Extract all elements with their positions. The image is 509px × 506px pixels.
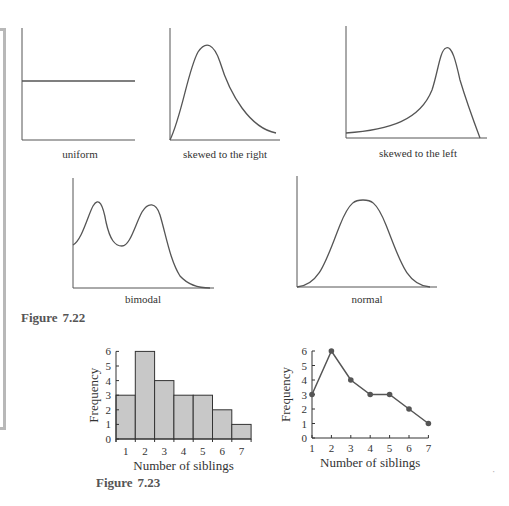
- x-tick-label: 6: [406, 442, 412, 454]
- data-point: [367, 392, 373, 398]
- y-axis-label: Frequency: [278, 367, 293, 422]
- data-point: [329, 348, 335, 354]
- x-tick-label: 7: [426, 442, 432, 454]
- shape-uniform: uniform: [22, 28, 135, 160]
- histogram-bar: [232, 424, 251, 439]
- y-tick-label: 5: [302, 360, 308, 372]
- scan-mark: ·: [492, 466, 495, 477]
- histogram-chart: 01234561234567Number of siblingsFrequenc…: [86, 345, 251, 473]
- shape-normal: normal: [297, 176, 437, 305]
- shape-skewed-left: skewed to the left: [346, 26, 487, 159]
- histogram-bar: [116, 395, 135, 439]
- shape-label: skewed to the right: [183, 148, 267, 160]
- data-point: [348, 377, 354, 383]
- x-tick-label: 5: [387, 442, 393, 454]
- frequency-polygon-chart: 01234561234567Number of siblingsFrequenc…: [278, 345, 432, 470]
- histogram-bar: [213, 410, 232, 439]
- x-tick-label: 1: [309, 442, 315, 454]
- shape-skewed-right: skewed to the right: [170, 28, 280, 160]
- figure-7-22-caption: Figure7.22: [21, 310, 85, 325]
- x-axis-label: Number of siblings: [133, 458, 233, 473]
- y-tick-label: 3: [302, 389, 308, 401]
- figure-7-23-caption: Figure7.23: [96, 475, 161, 490]
- y-tick-label: 0: [302, 432, 308, 444]
- x-tick-label: 3: [348, 442, 354, 454]
- y-axis-label: Frequency: [86, 367, 101, 422]
- y-tick-label: 6: [302, 345, 308, 357]
- y-tick-label: 4: [302, 374, 308, 386]
- x-tick-label: 2: [142, 445, 148, 457]
- y-tick-label: 3: [106, 389, 112, 401]
- x-tick-label: 7: [239, 445, 245, 457]
- histogram-bar: [135, 351, 154, 439]
- x-tick-label: 2: [329, 442, 335, 454]
- y-tick-label: 5: [106, 360, 112, 372]
- shape-label: bimodal: [125, 293, 161, 305]
- histogram-bar: [155, 381, 174, 439]
- y-tick-label: 4: [106, 375, 112, 387]
- data-point: [426, 421, 432, 427]
- y-tick-label: 1: [106, 418, 112, 430]
- y-tick-label: 2: [302, 403, 308, 415]
- x-tick-label: 6: [219, 445, 225, 457]
- y-tick-label: 1: [302, 418, 308, 430]
- shape-label: normal: [351, 293, 382, 305]
- figures-canvas: uniform skewed to the right skewed to th…: [0, 0, 509, 506]
- x-tick-label: 3: [162, 445, 168, 457]
- x-tick-label: 4: [367, 442, 373, 454]
- x-axis-label: Number of siblings: [320, 455, 420, 470]
- histogram-bar: [193, 395, 212, 439]
- y-tick-label: 6: [106, 345, 112, 357]
- x-tick-label: 4: [181, 445, 187, 457]
- data-point: [406, 406, 412, 412]
- data-point: [387, 392, 393, 398]
- histogram-bar: [174, 395, 193, 439]
- shape-label: uniform: [62, 148, 98, 160]
- frequency-line: [312, 351, 428, 424]
- x-tick-label: 1: [123, 445, 129, 457]
- x-tick-label: 5: [200, 445, 206, 457]
- y-tick-label: 2: [106, 404, 112, 416]
- shape-bimodal: bimodal: [73, 178, 214, 305]
- y-tick-label: 0: [106, 433, 112, 445]
- shape-label: skewed to the left: [379, 147, 457, 159]
- data-point: [309, 392, 315, 398]
